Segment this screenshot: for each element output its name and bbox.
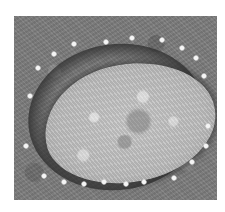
bright-dot	[159, 37, 165, 43]
bright-dot	[103, 39, 109, 45]
bright-dot	[179, 45, 185, 51]
bright-dot	[193, 55, 199, 61]
bright-dot	[123, 181, 129, 187]
bright-dot	[203, 143, 209, 149]
bright-dot	[41, 173, 47, 179]
bright-dot	[35, 65, 41, 71]
bright-dot	[27, 93, 33, 99]
bright-dot	[141, 179, 147, 185]
bright-dot	[189, 159, 195, 165]
bright-dot	[101, 179, 107, 185]
bright-dot	[205, 123, 211, 129]
bright-dot	[171, 175, 177, 181]
bright-dot	[201, 73, 207, 79]
micrograph-image	[14, 16, 217, 200]
bright-dot	[129, 35, 135, 41]
bright-dot	[61, 179, 67, 185]
bright-dot	[71, 41, 77, 47]
bright-dot	[81, 181, 87, 187]
bright-dot	[23, 143, 29, 149]
bright-dot	[51, 51, 57, 57]
